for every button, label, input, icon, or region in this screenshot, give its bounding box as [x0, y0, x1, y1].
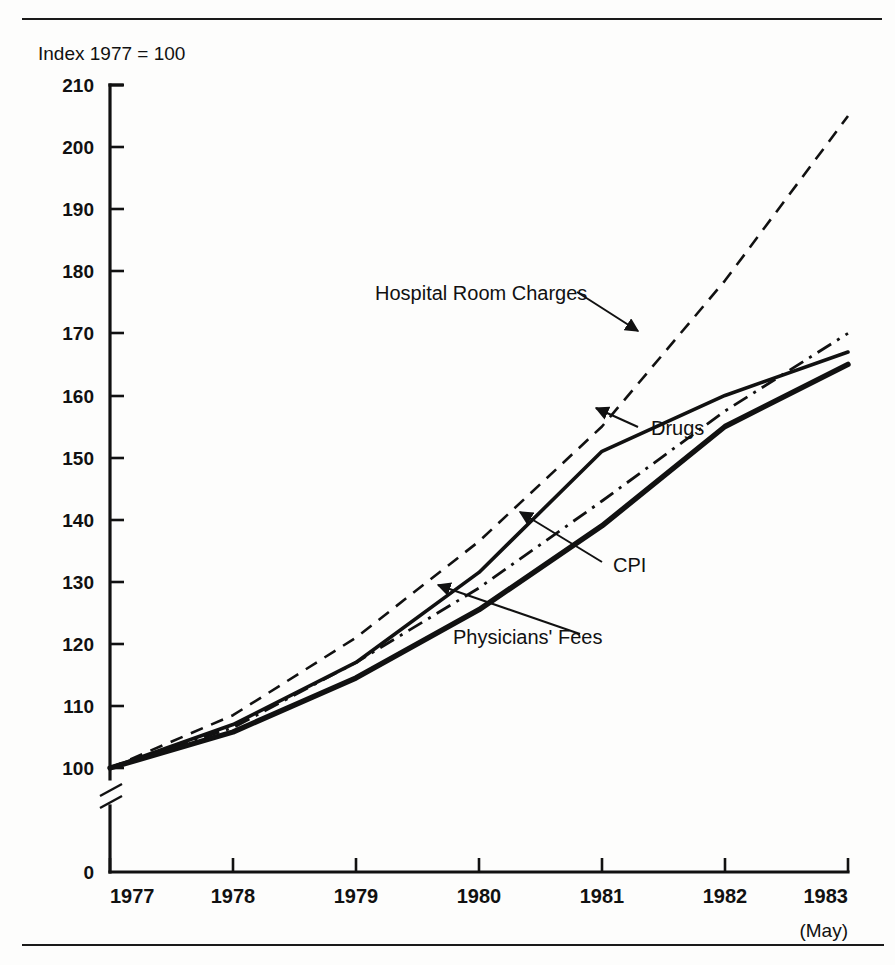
figure-root: Index 1977 = 100 210 [0, 0, 895, 965]
series-line-physicians-fees [110, 364, 848, 768]
x-tick-label-1983: 1983 [804, 885, 849, 907]
x-tick-label-1982: 1982 [703, 885, 748, 907]
x-axis-may-footnote: (May) [799, 920, 848, 941]
annotation-label-physicians-fees: Physicians' Fees [453, 626, 602, 648]
series-layer [110, 116, 848, 768]
x-axis-tick-labels: 1977 1978 1979 1980 1981 1982 1983 (May) [110, 885, 848, 941]
y-axis-ticks [110, 85, 124, 768]
y-tick-label-200: 200 [62, 137, 94, 158]
series-line-cpi [110, 333, 848, 768]
annotation-label-cpi: CPI [613, 554, 646, 576]
annotation-leaders [438, 292, 638, 634]
y-axis-tick-labels: 210 200 190 180 170 160 150 140 130 120 … [62, 75, 94, 883]
series-line-hospital-room-charges [110, 116, 848, 768]
annotation-label-hospital-room-charges: Hospital Room Charges [375, 282, 587, 304]
index-note: Index 1977 = 100 [38, 43, 185, 64]
y-tick-label-150: 150 [62, 448, 94, 469]
y-tick-label-100: 100 [62, 758, 94, 779]
x-axis-ticks [110, 858, 848, 872]
x-tick-label-1977: 1977 [110, 885, 155, 907]
y-tick-label-110: 110 [63, 696, 94, 717]
y-tick-label-190: 190 [62, 199, 94, 220]
x-tick-label-1979: 1979 [334, 885, 379, 907]
y-tick-label-210: 210 [62, 75, 94, 96]
y-tick-label-140: 140 [62, 510, 94, 531]
annotation-label-drugs: Drugs [651, 417, 704, 439]
y-tick-label-160: 160 [62, 386, 94, 407]
axis-break-mark-upper [100, 784, 122, 796]
annotation-labels: Hospital Room Charges Drugs CPI Physicia… [375, 282, 704, 648]
series-line-drugs [110, 352, 848, 768]
y-tick-label-130: 130 [62, 572, 94, 593]
x-tick-label-1978: 1978 [211, 885, 256, 907]
y-tick-label-170: 170 [62, 323, 94, 344]
x-tick-label-1981: 1981 [580, 885, 625, 907]
y-tick-label-180: 180 [62, 261, 94, 282]
x-tick-label-1980: 1980 [457, 885, 502, 907]
y-tick-label-0: 0 [83, 862, 94, 883]
cropped-source-caption [40, 955, 440, 965]
price-index-line-chart: Index 1977 = 100 210 [0, 0, 895, 965]
y-tick-label-120: 120 [62, 634, 94, 655]
